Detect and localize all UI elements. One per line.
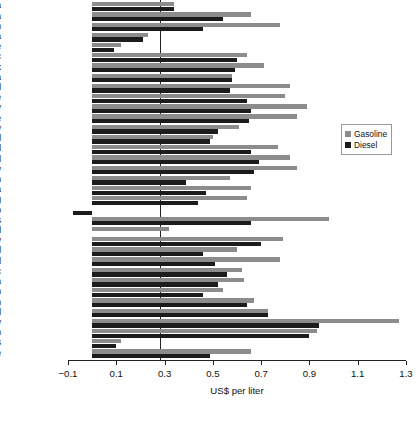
- category-label: Italy: [0, 166, 1, 174]
- category-label: Norway: [0, 237, 1, 245]
- bar-diesel: [92, 313, 268, 317]
- x-tick-label: 1.1: [336, 368, 380, 379]
- category-label: Spain: [0, 288, 1, 296]
- bar-diesel: [73, 211, 92, 215]
- x-tick-label: −0.1: [46, 368, 90, 379]
- category-label: Finland: [0, 84, 1, 92]
- category-label: Slovenia: [0, 278, 1, 286]
- category-label: Portugal: [0, 258, 1, 266]
- category-label: Austria: [0, 13, 1, 21]
- bar-diesel: [92, 221, 251, 225]
- bar-diesel: [92, 252, 203, 256]
- x-tick: [165, 361, 166, 365]
- bar-diesel: [92, 262, 215, 266]
- category-label: Ireland: [0, 145, 1, 153]
- bar-diesel: [92, 191, 205, 195]
- category-label: Canada: [0, 33, 1, 41]
- bar-diesel: [92, 129, 218, 133]
- bar-diesel: [92, 27, 203, 31]
- x-tick: [68, 361, 69, 365]
- bar-diesel: [92, 37, 143, 41]
- category-label: United States: [0, 339, 1, 347]
- category-label: Netherlands: [0, 217, 1, 225]
- x-tick: [213, 361, 214, 365]
- bar-diesel: [92, 344, 116, 348]
- bar-diesel: [92, 17, 222, 21]
- bar-diesel: [92, 88, 230, 92]
- bar-diesel: [92, 109, 251, 113]
- bar-diesel: [92, 58, 237, 62]
- category-label: Sweden: [0, 299, 1, 307]
- x-tick: [261, 361, 262, 365]
- category-label: Iceland: [0, 135, 1, 143]
- bar-diesel: [92, 354, 210, 358]
- category-label: Hungary: [0, 125, 1, 133]
- x-tick: [116, 361, 117, 365]
- bar-gasoline: [92, 227, 169, 231]
- bar-diesel: [92, 119, 249, 123]
- legend-label-gasoline: Gasoline: [354, 130, 387, 139]
- bar-diesel: [92, 334, 309, 338]
- category-label: Luxembourg: [0, 196, 1, 204]
- x-tick-label: 0.9: [287, 368, 331, 379]
- x-tick-label: 0.5: [191, 368, 235, 379]
- bar-diesel: [92, 170, 254, 174]
- category-label: Belgium: [0, 23, 1, 31]
- bar-diesel: [92, 160, 259, 164]
- bar-diesel: [92, 99, 247, 103]
- x-tick-label: 0.1: [94, 368, 138, 379]
- x-tick-label: 0.7: [239, 368, 283, 379]
- bar-diesel: [92, 139, 210, 143]
- category-label: Australia: [0, 2, 1, 10]
- category-label: Slovak Republic: [0, 268, 1, 276]
- legend-label-diesel: Diesel: [354, 141, 377, 150]
- category-label: Turkey: [0, 319, 1, 327]
- category-label: United Kingdom: [0, 329, 1, 337]
- category-label: Czech Republic: [0, 53, 1, 61]
- category-label: Mexico: [0, 207, 1, 215]
- bar-diesel: [92, 293, 203, 297]
- bar-diesel: [92, 7, 174, 11]
- legend-item-diesel: Diesel: [345, 140, 387, 150]
- category-label: Poland: [0, 247, 1, 255]
- legend-item-gasoline: Gasoline: [345, 129, 387, 139]
- bar-diesel: [92, 201, 198, 205]
- category-label: Simple average: [0, 350, 1, 358]
- bar-diesel: [92, 68, 234, 72]
- bar-diesel: [92, 272, 227, 276]
- chart-legend: Gasoline Diesel: [341, 124, 392, 155]
- bar-diesel: [92, 48, 114, 52]
- category-label: Switzerland: [0, 309, 1, 317]
- bar-diesel: [92, 180, 186, 184]
- category-label: Denmark: [0, 64, 1, 72]
- bar-diesel: [92, 242, 261, 246]
- category-label: Estonia: [0, 74, 1, 82]
- bar-diesel: [92, 78, 232, 82]
- legend-swatch-gasoline: [345, 131, 351, 137]
- bar-diesel: [92, 150, 251, 154]
- category-label: Israel: [0, 156, 1, 164]
- bar-diesel: [92, 282, 218, 286]
- bar-diesel: [92, 323, 319, 327]
- bar-chart: AustraliaAustriaBelgiumCanadaChileCzech …: [0, 0, 416, 421]
- x-axis-line: [68, 360, 406, 361]
- category-label: Korea: [0, 186, 1, 194]
- bar-diesel: [92, 303, 247, 307]
- x-tick: [406, 361, 407, 365]
- category-label: Chile: [0, 43, 1, 51]
- x-tick-label: 1.3: [384, 368, 416, 379]
- category-label: Germany: [0, 104, 1, 112]
- plot-area: [68, 0, 406, 360]
- x-tick-label: 0.3: [143, 368, 187, 379]
- category-label: Greece: [0, 115, 1, 123]
- x-tick: [358, 361, 359, 365]
- legend-swatch-diesel: [345, 142, 351, 148]
- category-label: France: [0, 94, 1, 102]
- x-axis-title: US$ per liter: [68, 385, 406, 396]
- category-label: Japan: [0, 176, 1, 184]
- x-tick: [309, 361, 310, 365]
- category-label: New Zealand: [0, 227, 1, 235]
